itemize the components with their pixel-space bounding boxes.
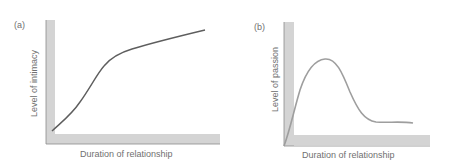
y-axis-band xyxy=(46,20,55,144)
x-axis-band xyxy=(284,135,430,145)
intimacy-curve xyxy=(52,30,205,131)
y-axis-label-passion: Level of passion xyxy=(270,47,280,112)
chart-panel-intimacy: (a) Level of intimacy Duration of relati… xyxy=(0,0,228,168)
chart-panel-passion: (b) Level of passion Duration of relatio… xyxy=(228,0,455,168)
x-axis-label-a: Duration of relationship xyxy=(80,149,173,159)
y-axis-label-intimacy: Level of intimacy xyxy=(29,50,39,117)
passion-plot xyxy=(228,0,455,168)
passion-curve xyxy=(284,59,413,146)
x-axis-band xyxy=(46,134,220,144)
x-axis-label-b: Duration of relationship xyxy=(302,150,395,160)
